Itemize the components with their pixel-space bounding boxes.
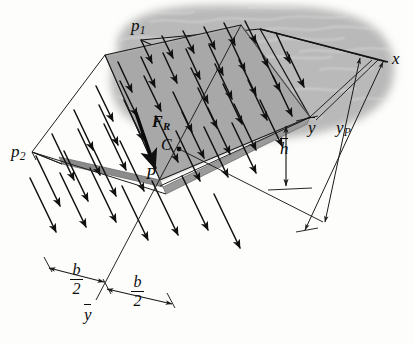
label-y-bar-bottom: y xyxy=(84,305,92,323)
label-y-p: yP xyxy=(336,119,351,139)
label-h-bar: h xyxy=(280,139,289,157)
label-p1: p1 xyxy=(131,17,146,37)
label-pressure-center-p: P xyxy=(146,166,156,182)
label-p2: p2 xyxy=(11,143,26,163)
label-centroid-c: C xyxy=(161,137,172,153)
hydrostatic-pressure-figure: p1 p2 x FR C P h y yP y b 2 b 2 xyxy=(0,0,413,345)
label-resultant-force: FR xyxy=(152,114,170,132)
dimension-b-over-2-left: b 2 xyxy=(70,262,83,297)
label-y-bar-right: y xyxy=(308,118,316,136)
dimension-lines-bottom xyxy=(44,257,175,308)
dimension-b-over-2-right: b 2 xyxy=(131,274,144,309)
figure-canvas xyxy=(0,0,413,345)
label-x-axis: x xyxy=(392,50,400,67)
